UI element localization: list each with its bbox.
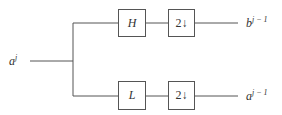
- output-label-low: aj − 1: [246, 90, 268, 102]
- low-pass-filter-box: L: [118, 81, 146, 110]
- high-pass-filter-box: H: [118, 9, 146, 37]
- downsampler-box-low: 2↓: [168, 81, 195, 110]
- output-label-high: bj − 1: [246, 17, 268, 29]
- downsampler-box-high: 2↓: [168, 9, 195, 37]
- input-label: aj: [9, 55, 17, 67]
